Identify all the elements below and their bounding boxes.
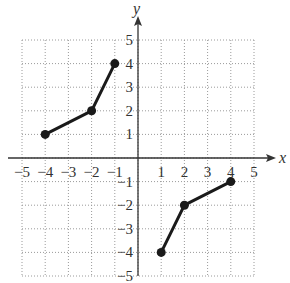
- y-axis-label: y: [131, 0, 141, 18]
- function-graph: xy −5−4−3−2−112345−5−4−3−2−112345: [0, 0, 290, 283]
- segment-right: [161, 182, 231, 253]
- y-tick-label: −3: [117, 221, 133, 237]
- y-tick-label: −5: [117, 268, 133, 283]
- y-tick-label: 3: [126, 79, 134, 95]
- data-point: [180, 201, 189, 210]
- data-point: [87, 106, 96, 115]
- data-point: [157, 248, 166, 257]
- data-point: [110, 59, 119, 68]
- x-tick-label: −2: [84, 164, 100, 180]
- x-tick-label: 5: [250, 164, 258, 180]
- x-tick-label: 1: [157, 164, 165, 180]
- axes: xy: [8, 0, 286, 276]
- y-tick-label: −2: [117, 197, 133, 213]
- x-axis-label: x: [278, 149, 286, 166]
- x-tick-label: −3: [60, 164, 76, 180]
- y-tick-label: 5: [126, 32, 134, 48]
- x-tick-label: 3: [204, 164, 212, 180]
- y-tick-label: 2: [126, 103, 134, 119]
- y-tick-label: 1: [126, 126, 134, 142]
- x-tick-label: −4: [37, 164, 53, 180]
- x-tick-label: −5: [14, 164, 30, 180]
- data-point: [226, 177, 235, 186]
- segment-left: [45, 64, 115, 135]
- x-tick-label: 2: [181, 164, 189, 180]
- y-tick-label: 4: [126, 56, 134, 72]
- y-tick-label: −1: [117, 174, 133, 190]
- y-tick-label: −4: [117, 244, 133, 260]
- data-point: [41, 130, 50, 139]
